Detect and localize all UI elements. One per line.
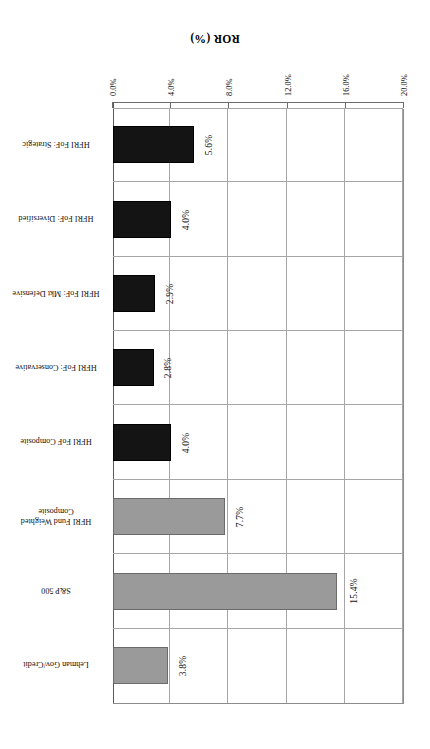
tick-mark <box>345 103 346 108</box>
bar-value-label: 15.4% <box>349 579 359 605</box>
bar-hfri-fof-mkt-defensive[interactable] <box>113 275 155 312</box>
category-label-hfri-fof-diversified: HFRI FoF: Diversified <box>4 213 108 223</box>
bar-row: 15.4% <box>113 554 403 628</box>
bar-hfri-fof-diversified[interactable] <box>113 201 171 238</box>
bar-row: 7.7% <box>113 480 403 554</box>
tick-label-0pct: 0.0% <box>109 79 118 96</box>
category-label-sp-500: S&P 500 <box>4 585 108 595</box>
tick-mark <box>287 103 288 108</box>
bar-row: 3.8% <box>113 629 403 703</box>
bar-value-label: 5.6% <box>204 135 214 156</box>
tick-mark <box>170 103 171 108</box>
tick-label-8pct: 8.0% <box>225 79 234 96</box>
bar-value-label: 2.9% <box>164 284 174 305</box>
category-label-hfri-fof-mkt-defensive: HFRI FoF: Mkt Defensive <box>4 288 108 298</box>
bar-sp-500[interactable] <box>113 573 337 610</box>
bar-value-label: 4.0% <box>180 432 190 453</box>
bar-row: 4.0% <box>113 182 403 256</box>
bar-value-label: 4.0% <box>180 209 190 230</box>
category-label-lehman-gov-credit: Lehman Gov/Credit <box>4 659 108 669</box>
bar-row: 5.6% <box>113 108 403 182</box>
bar-chart-figure: 5.6% 4.0% 2.9% 2.8% 4.0% 7.7% 15.4% 3.8 <box>0 0 430 749</box>
bar-hfri-fund-weighted-composite[interactable] <box>113 498 225 535</box>
value-axis-title: ROR (%) <box>0 33 430 45</box>
tick-mark <box>228 103 229 108</box>
bar-hfri-fof-conservative[interactable] <box>113 350 154 387</box>
category-label-hfri-fof-strategic: HFRI FoF: Strategic <box>4 139 108 149</box>
category-label-hfri-fund-weighted: HFRI Fund Weighted Composite <box>4 506 108 526</box>
tick-mark <box>112 103 113 108</box>
plot-area: 5.6% 4.0% 2.9% 2.8% 4.0% 7.7% 15.4% 3.8 <box>113 109 404 704</box>
tick-label-4pct: 4.0% <box>167 79 176 96</box>
tick-label-12pct: 12.0% <box>284 74 293 96</box>
bar-row: 2.8% <box>113 331 403 405</box>
tick-mark <box>403 103 404 108</box>
bar-value-label: 7.7% <box>234 507 244 528</box>
bar-row: 4.0% <box>113 406 403 480</box>
bar-hfri-fof-strategic[interactable] <box>113 126 194 163</box>
bar-value-label: 3.8% <box>178 656 188 677</box>
bar-lehman-gov-credit[interactable] <box>113 647 168 684</box>
bar-value-label: 2.8% <box>163 358 173 379</box>
bar-hfri-fof-composite[interactable] <box>113 424 171 461</box>
value-axis-line <box>112 102 404 103</box>
tick-label-20pct: 20.0% <box>400 74 409 96</box>
category-label-hfri-fof-conservative: HFRI FoF: Conservative <box>4 362 108 372</box>
bar-row: 2.9% <box>113 257 403 331</box>
tick-label-16pct: 16.0% <box>342 74 351 96</box>
category-label-hfri-fof-composite: HFRI FoF Composite <box>4 436 108 446</box>
